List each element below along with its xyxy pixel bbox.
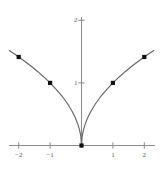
axes-group	[9, 17, 155, 149]
y-tick-label: 2	[69, 17, 78, 24]
point-at-x-2	[142, 55, 146, 59]
point-at-x-minus-1	[48, 81, 52, 85]
y-tick-label: 1	[69, 79, 78, 86]
plot-canvas	[0, 0, 163, 169]
point-at-x-minus-2	[17, 55, 21, 59]
x-tick-label: −1	[46, 152, 53, 159]
x-tick-label: 1	[111, 152, 115, 159]
x-tick-label: −2	[15, 152, 22, 159]
point-at-x-1	[111, 81, 115, 85]
chart-figure: −2−11212	[0, 0, 163, 169]
x-tick-label: 2	[143, 152, 147, 159]
point-at-origin	[79, 143, 83, 147]
